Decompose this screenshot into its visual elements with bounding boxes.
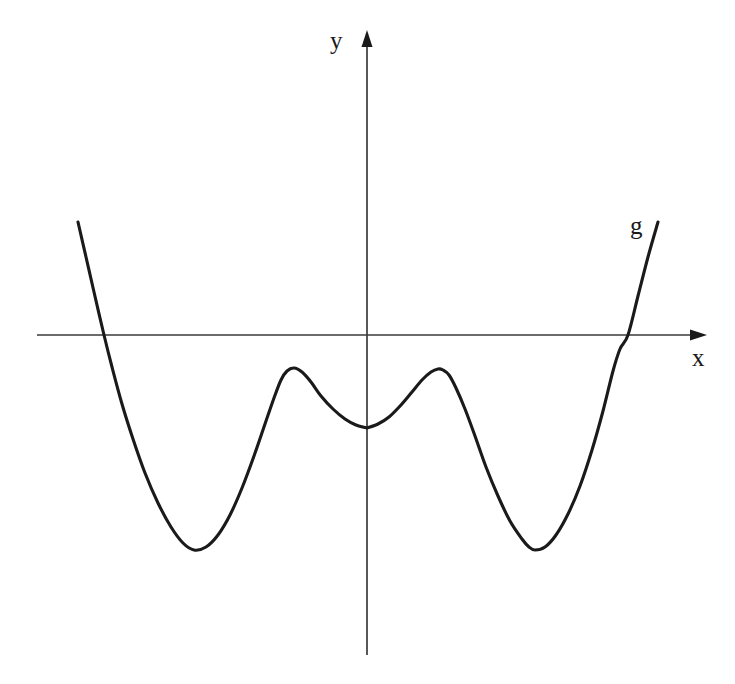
x-axis-label: x: [692, 345, 705, 370]
function-graph-figure: y x g: [0, 0, 735, 684]
x-axis: [37, 330, 707, 341]
y-axis: [362, 30, 373, 655]
y-axis-label: y: [330, 28, 343, 53]
x-axis-arrowhead-icon: [690, 330, 707, 341]
function-curve-g: [78, 222, 658, 550]
y-axis-arrowhead-icon: [362, 30, 373, 47]
curve-label-g: g: [630, 213, 643, 238]
plot-canvas: [0, 0, 735, 684]
